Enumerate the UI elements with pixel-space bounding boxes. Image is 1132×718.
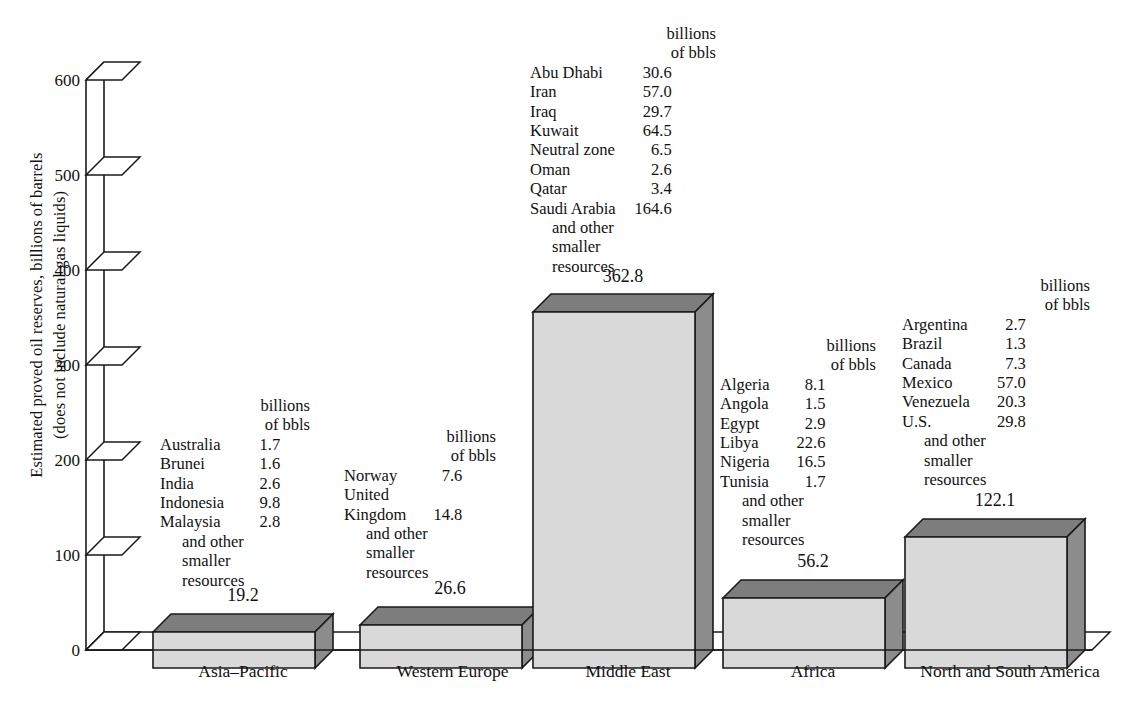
table-row: Algeria 8.1 <box>720 375 825 394</box>
country-value: 164.6 <box>626 199 672 218</box>
table-row: Venezuela 20.3 <box>902 392 1026 411</box>
bar-north-south-america[interactable] <box>905 519 1085 668</box>
table-row: Australia 1.7 <box>160 435 280 454</box>
country-name: Egypt <box>720 414 779 433</box>
bar-chart: Estimated proved oil reserves, billions … <box>0 0 1132 718</box>
country-name: Norway <box>344 466 416 485</box>
breakdown-table: Norway 7.6 United Kingdom 14.8 <box>344 466 462 524</box>
country-value: 22.6 <box>779 433 825 452</box>
country-value: 2.6 <box>626 160 672 179</box>
country-name: Saudi Arabia <box>530 199 626 218</box>
country-value: 7.6 <box>416 466 462 485</box>
country-value: 2.7 <box>980 315 1026 334</box>
country-value: 57.0 <box>626 82 672 101</box>
table-row: Argentina 2.7 <box>902 315 1026 334</box>
country-value: 16.5 <box>779 452 825 471</box>
country-value: 7.3 <box>980 354 1026 373</box>
table-row: Kingdom 14.8 <box>344 505 462 524</box>
breakdown-north-south-america: billions of bbls Argentina 2.7 Brazil 1.… <box>902 276 1090 489</box>
country-value: 20.3 <box>980 392 1026 411</box>
country-name: Qatar <box>530 179 626 198</box>
country-value: 64.5 <box>626 121 672 140</box>
country-name: Algeria <box>720 375 779 394</box>
breakdown-header: billions of bbls <box>344 427 496 466</box>
breakdown-table: Abu Dhabi 30.6 Iran 57.0 Iraq 29.7 Kuwai… <box>530 63 672 218</box>
table-row: Iran 57.0 <box>530 82 672 101</box>
category-label-north-south-america: North and South America <box>898 660 1122 682</box>
country-value: 8.1 <box>779 375 825 394</box>
table-row: Qatar 3.4 <box>530 179 672 198</box>
breakdown-middle-east: billions of bbls Abu Dhabi 30.6 Iran 57.… <box>530 24 716 276</box>
table-row: Brunei 1.6 <box>160 454 280 473</box>
country-value: 1.7 <box>779 472 825 491</box>
breakdown-table: Argentina 2.7 Brazil 1.3 Canada 7.3 Mexi… <box>902 315 1026 431</box>
table-row: Saudi Arabia 164.6 <box>530 199 672 218</box>
table-row: United <box>344 485 462 504</box>
table-row: Oman 2.6 <box>530 160 672 179</box>
table-row: Tunisia 1.7 <box>720 472 825 491</box>
breakdown-africa: billions of bbls Algeria 8.1 Angola 1.5 … <box>720 336 876 549</box>
country-name: Tunisia <box>720 472 779 491</box>
breakdown-table: Australia 1.7 Brunei 1.6 India 2.6 Indon… <box>160 435 280 532</box>
country-name: Mexico <box>902 373 980 392</box>
category-label-asia-pacific: Asia–Pacific <box>143 660 343 682</box>
table-row: Malaysia 2.8 <box>160 512 280 531</box>
breakdown-header: billions of bbls <box>160 396 310 435</box>
country-name: Argentina <box>902 315 980 334</box>
country-value: 1.6 <box>234 454 280 473</box>
table-row: Libya 22.6 <box>720 433 825 452</box>
bar-western-europe[interactable] <box>360 607 540 668</box>
table-row: Angola 1.5 <box>720 394 825 413</box>
country-value: 30.6 <box>626 63 672 82</box>
table-row: Indonesia 9.8 <box>160 493 280 512</box>
country-name: Indonesia <box>160 493 234 512</box>
country-name: Kingdom <box>344 505 416 524</box>
country-name: Australia <box>160 435 234 454</box>
table-row: Abu Dhabi 30.6 <box>530 63 672 82</box>
country-value: 2.8 <box>234 512 280 531</box>
country-name: Kuwait <box>530 121 626 140</box>
table-row: Iraq 29.7 <box>530 102 672 121</box>
country-name: U.S. <box>902 412 980 431</box>
breakdown-table: Algeria 8.1 Angola 1.5 Egypt 2.9 Libya 2… <box>720 375 825 491</box>
country-name: Nigeria <box>720 452 779 471</box>
bar-africa[interactable] <box>723 580 903 668</box>
table-row: Brazil 1.3 <box>902 334 1026 353</box>
country-name: Venezuela <box>902 392 980 411</box>
country-name: Iraq <box>530 102 626 121</box>
country-name: Angola <box>720 394 779 413</box>
country-value: 1.5 <box>779 394 825 413</box>
table-row: Nigeria 16.5 <box>720 452 825 471</box>
breakdown-western-europe: billions of bbls Norway 7.6 United Kingd… <box>344 427 496 582</box>
table-row: Mexico 57.0 <box>902 373 1026 392</box>
breakdown-header: billions of bbls <box>902 276 1090 315</box>
breakdown-asia-pacific: billions of bbls Australia 1.7 Brunei 1.… <box>160 396 310 590</box>
country-name: United <box>344 485 416 504</box>
country-name: Brazil <box>902 334 980 353</box>
bar-value-africa: 56.2 <box>738 552 888 570</box>
country-value: 1.3 <box>980 334 1026 353</box>
country-value: 1.7 <box>234 435 280 454</box>
breakdown-tail: and other smaller resources <box>160 532 310 590</box>
country-name: India <box>160 474 234 493</box>
breakdown-tail: and other smaller resources <box>530 218 716 276</box>
country-name: Iran <box>530 82 626 101</box>
country-value: 29.8 <box>980 412 1026 431</box>
country-value: 2.9 <box>779 414 825 433</box>
category-label-africa: Africa <box>718 660 908 682</box>
country-value: 57.0 <box>980 373 1026 392</box>
country-value <box>416 485 462 504</box>
country-value: 29.7 <box>626 102 672 121</box>
table-row: Kuwait 64.5 <box>530 121 672 140</box>
table-row: U.S. 29.8 <box>902 412 1026 431</box>
table-row: India 2.6 <box>160 474 280 493</box>
bar-middle-east[interactable] <box>533 294 713 668</box>
breakdown-header: billions of bbls <box>720 336 876 375</box>
breakdown-tail: and other smaller resources <box>720 491 876 549</box>
country-name: Neutral zone <box>530 140 626 159</box>
table-row: Egypt 2.9 <box>720 414 825 433</box>
table-row: Neutral zone 6.5 <box>530 140 672 159</box>
breakdown-tail: and other smaller resources <box>344 524 496 582</box>
country-name: Abu Dhabi <box>530 63 626 82</box>
country-value: 2.6 <box>234 474 280 493</box>
